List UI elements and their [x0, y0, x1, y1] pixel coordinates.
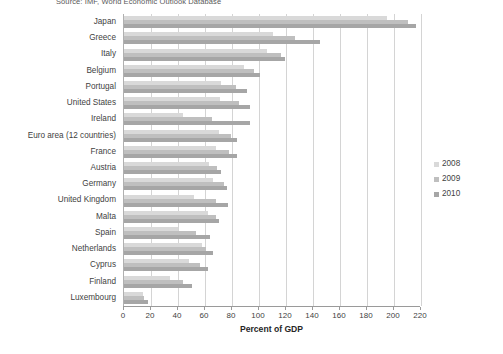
tick-mark — [150, 307, 151, 310]
bar-group — [124, 46, 420, 62]
tick-label: 20 — [146, 311, 155, 320]
legend-item[interactable]: 2010 — [434, 190, 460, 198]
bar-group — [124, 111, 420, 127]
category-label: United States — [0, 95, 120, 111]
bar-group — [124, 225, 420, 241]
tick-mark — [366, 307, 367, 310]
bar-group — [124, 176, 420, 192]
bar-2010 — [124, 138, 237, 142]
bar-2010 — [124, 170, 221, 174]
category-label: Austria — [0, 160, 120, 176]
bar-group — [124, 241, 420, 257]
bar-group — [124, 14, 420, 30]
tick-label: 140 — [305, 311, 318, 320]
category-label: Spain — [0, 225, 120, 241]
bar-group — [124, 79, 420, 95]
legend-label: 2009 — [442, 175, 460, 183]
bar-2010 — [124, 89, 247, 93]
category-label: Portugal — [0, 79, 120, 95]
tick-label: 200 — [386, 311, 399, 320]
category-label: France — [0, 144, 120, 160]
bar-2010 — [124, 40, 320, 44]
legend-label: 2008 — [442, 160, 460, 168]
bar-group — [124, 257, 420, 273]
tick-mark — [393, 307, 394, 310]
bar-2010 — [124, 251, 213, 255]
bar-group — [124, 290, 420, 306]
bar-2010 — [124, 57, 285, 61]
tick-mark — [123, 307, 124, 310]
bar-group — [124, 192, 420, 208]
bar-group — [124, 128, 420, 144]
tick-mark — [204, 307, 205, 310]
bar-group — [124, 160, 420, 176]
bar-group — [124, 63, 420, 79]
bar-2010 — [124, 24, 416, 28]
tick-mark — [312, 307, 313, 310]
tick-label: 100 — [251, 311, 264, 320]
tick-label: 220 — [413, 311, 426, 320]
tick-label: 0 — [121, 311, 125, 320]
category-label: Euro area (12 countries) — [0, 128, 120, 144]
bar-group — [124, 144, 420, 160]
x-axis-ticks: 020406080100120140160180200220 — [123, 307, 420, 321]
legend-item[interactable]: 2008 — [434, 160, 460, 168]
bar-group — [124, 209, 420, 225]
category-label: Belgium — [0, 63, 120, 79]
category-label: Malta — [0, 209, 120, 225]
bar-2010 — [124, 203, 228, 207]
legend-label: 2010 — [442, 190, 460, 198]
bar-2010 — [124, 300, 148, 304]
bar-2010 — [124, 284, 192, 288]
tick-mark — [177, 307, 178, 310]
legend-swatch-icon — [434, 162, 439, 167]
category-label: Ireland — [0, 111, 120, 127]
tick-label: 60 — [200, 311, 209, 320]
tick-label: 80 — [227, 311, 236, 320]
tick-label: 120 — [278, 311, 291, 320]
x-axis-label: Percent of GDP — [123, 324, 420, 334]
category-label: Germany — [0, 176, 120, 192]
bar-2010 — [124, 121, 250, 125]
bar-group — [124, 274, 420, 290]
category-label: Japan — [0, 14, 120, 30]
category-axis-labels: JapanGreeceItalyBelgiumPortugalUnited St… — [0, 14, 120, 306]
category-label: United Kingdom — [0, 192, 120, 208]
tick-label: 40 — [173, 311, 182, 320]
tick-label: 160 — [332, 311, 345, 320]
bar-2010 — [124, 73, 260, 77]
bar-2010 — [124, 154, 237, 158]
category-label: Italy — [0, 46, 120, 62]
bar-2010 — [124, 219, 219, 223]
source-note: Source: IMF, World Economic Outlook Data… — [56, 0, 221, 6]
legend: 200820092010 — [434, 160, 460, 199]
category-label: Luxembourg — [0, 290, 120, 306]
tick-mark — [231, 307, 232, 310]
category-label: Netherlands — [0, 241, 120, 257]
bar-2010 — [124, 267, 208, 271]
bar-2010 — [124, 235, 210, 239]
legend-swatch-icon — [434, 177, 439, 182]
legend-item[interactable]: 2009 — [434, 175, 460, 183]
category-label: Greece — [0, 30, 120, 46]
tick-mark — [258, 307, 259, 310]
bar-rows — [124, 14, 420, 306]
tick-label: 180 — [359, 311, 372, 320]
category-label: Finland — [0, 274, 120, 290]
category-label: Cyprus — [0, 257, 120, 273]
legend-swatch-icon — [434, 192, 439, 197]
bar-2010 — [124, 186, 227, 190]
bar-2010 — [124, 105, 250, 109]
tick-mark — [420, 307, 421, 310]
tick-mark — [339, 307, 340, 310]
bar-group — [124, 95, 420, 111]
tick-mark — [285, 307, 286, 310]
chart-figure: JapanGreeceItalyBelgiumPortugalUnited St… — [0, 14, 503, 314]
gridline — [421, 14, 422, 306]
bar-group — [124, 30, 420, 46]
plot-area — [123, 14, 420, 306]
